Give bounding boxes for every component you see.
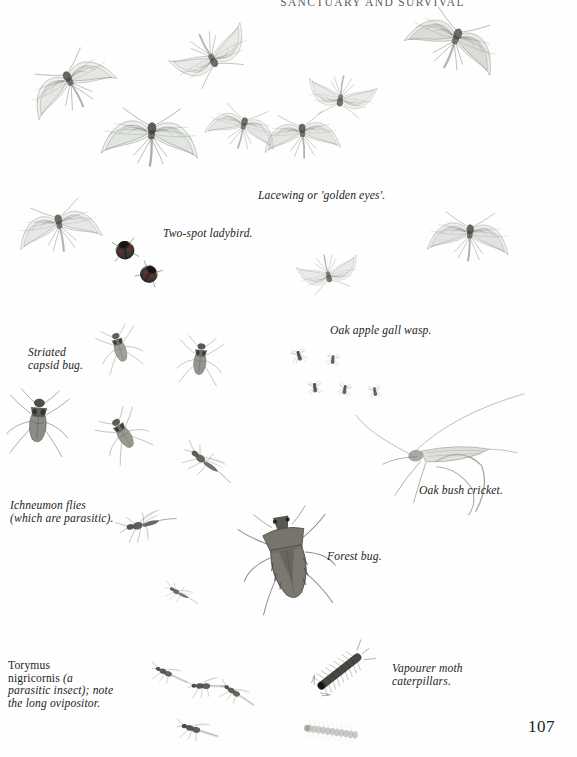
- caption-vapourer: Vapourer moth caterpillars.: [392, 663, 512, 688]
- specimen-capsid-bug-big-left: [2, 384, 73, 462]
- specimen-lacewing-lower-centre: [289, 234, 363, 301]
- specimen-lacewing-centre-large: [99, 102, 205, 193]
- caption-torymus: Torymus nigricornis (a parasitic insect)…: [8, 660, 126, 710]
- caption-ichneumon: Ichneumon flies (which are parasitic).: [10, 500, 140, 525]
- specimen-lacewing-top-right: [392, 0, 512, 107]
- specimen-gall-wasp-1: [289, 345, 310, 364]
- specimen-capsid-bug-right: [173, 332, 226, 390]
- specimen-torymus-4: [172, 715, 223, 746]
- specimen-ichneumon-upper: [172, 435, 241, 496]
- page-number: 107: [528, 717, 555, 737]
- specimen-ladybird-upper: [110, 236, 140, 265]
- specimen-lacewing-lower-right: [425, 206, 514, 283]
- specimen-lacewing-mid-right: [262, 107, 346, 179]
- specimen-caterpillar-upper: [306, 637, 380, 704]
- caption-torymus-species: Torymus nigricornis: [8, 659, 63, 685]
- specimen-ladybird-lower: [133, 258, 165, 289]
- caption-lacewing: Lacewing or 'golden eyes'.: [258, 190, 408, 203]
- caption-forest-bug: Forest bug.: [327, 551, 417, 564]
- running-head: SANCTUARY AND SURVIVAL: [0, 0, 577, 8]
- caption-striated: Striated capsid bug.: [28, 347, 128, 372]
- specimen-gall-wasp-4: [336, 380, 355, 397]
- specimen-torymus-3: [213, 675, 262, 713]
- caption-two-spot: Two-spot ladybird.: [163, 228, 283, 241]
- specimen-capsid-bug-mid: [89, 399, 160, 471]
- caption-bush-cricket: Oak bush cricket.: [419, 485, 539, 498]
- book-page: SANCTUARY AND SURVIVAL: [0, 0, 577, 757]
- specimen-gall-wasp-2: [324, 351, 341, 367]
- specimen-lacewing-top-centre: [152, 0, 260, 101]
- specimen-lacewing-lower-left: [13, 191, 111, 278]
- specimen-bush-cricket: [353, 388, 543, 531]
- specimen-gall-wasp-3: [306, 379, 324, 395]
- caption-gall-wasp: Oak apple gall wasp.: [330, 325, 460, 338]
- specimen-gall-wasp-5: [366, 383, 383, 399]
- specimen-caterpillar-lower: [302, 718, 369, 747]
- specimen-ichneumon-tiny: [158, 578, 203, 613]
